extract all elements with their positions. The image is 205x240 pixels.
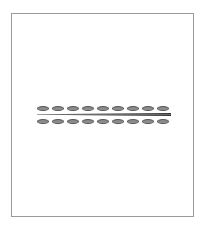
- gel-band: [112, 106, 124, 111]
- gel-band: [142, 119, 154, 124]
- gel-band: [52, 119, 64, 124]
- gel-band: [97, 119, 109, 124]
- gel-band: [112, 119, 124, 124]
- tapered-divider-line: [37, 113, 171, 116]
- gel-band: [67, 119, 79, 124]
- gel-band: [67, 106, 79, 111]
- gel-band: [127, 106, 139, 111]
- gel-band: [142, 106, 154, 111]
- gel-band: [52, 106, 64, 111]
- gel-band: [157, 106, 169, 111]
- gel-band: [37, 106, 49, 111]
- gel-band: [127, 119, 139, 124]
- gel-band: [157, 119, 169, 124]
- gel-band: [82, 119, 94, 124]
- gel-band: [97, 106, 109, 111]
- gel-band: [82, 106, 94, 111]
- gel-band: [37, 119, 49, 124]
